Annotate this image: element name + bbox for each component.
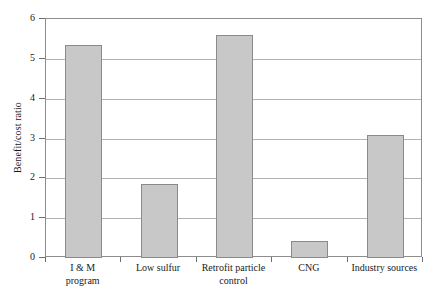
y-tick-label: 5 [11,53,35,63]
x-tick-label: Industry sources [341,262,428,275]
plot-area [45,18,422,257]
x-tick-label: I & M program [39,262,126,287]
bar [291,241,328,258]
y-tick-label: 1 [11,212,35,222]
bar [141,184,178,258]
y-tick-label: 0 [11,252,35,262]
x-tick-label: CNG [265,262,352,275]
x-tick-label: Retrofit particle control [190,262,277,287]
bar [216,35,253,258]
bar [367,135,404,258]
y-tick-label: 3 [11,133,35,143]
bar [65,45,102,258]
y-tick-label: 6 [11,13,35,23]
bar-chart: Benefit/cost ratio 0123456 I & M program… [0,0,438,291]
y-tick-label: 4 [11,93,35,103]
y-tick-label: 2 [11,172,35,182]
x-tick-label: Low sulfur [114,262,201,275]
